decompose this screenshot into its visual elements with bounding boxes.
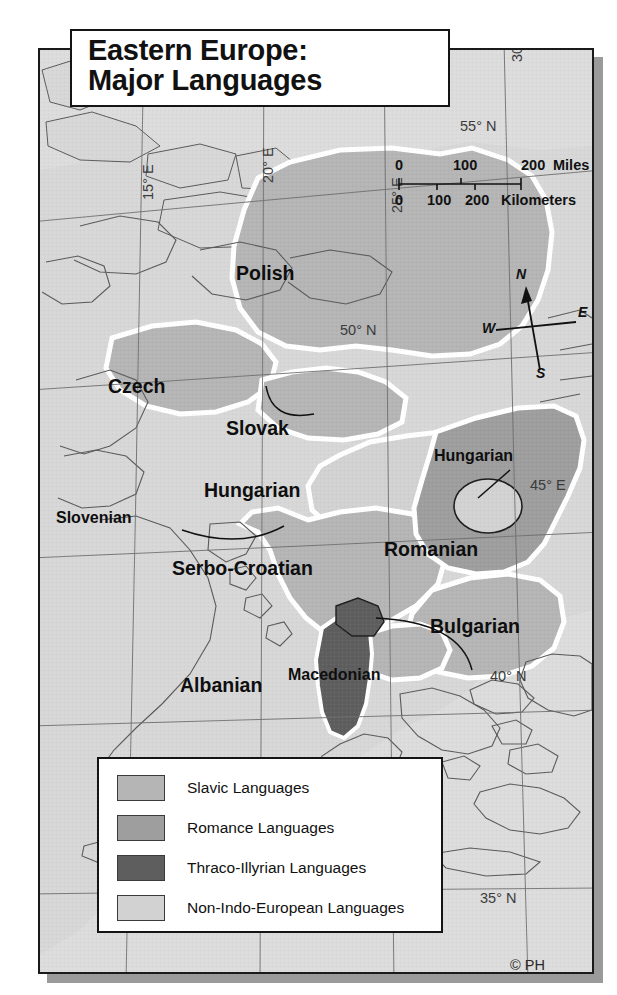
scale-bar-miles-row: 0 100 200 Miles: [395, 157, 594, 176]
compass-label-north: N: [516, 266, 526, 282]
legend-label-romance: Romance Languages: [187, 819, 334, 837]
legend-label-slavic: Slavic Languages: [187, 779, 309, 797]
map-label-slovenian: Slovenian: [56, 509, 132, 527]
scale-miles-tick-0: 0: [395, 157, 403, 173]
legend-item-non-indo-european: Non-Indo-European Languages: [99, 888, 441, 928]
scale-km-tick-100: 100: [427, 192, 451, 208]
graticule-label-55n: 55° N: [460, 118, 496, 134]
graticule-label-20e: 20° E: [260, 147, 276, 183]
graticule-label-15e: 15° E: [140, 164, 156, 200]
map-label-bulgarian: Bulgarian: [430, 615, 520, 638]
scale-bar-km-row: 0 100 200 Kilometers: [395, 192, 594, 211]
scale-km-unit: Kilometers: [501, 192, 576, 208]
scale-miles-tick-200: 200: [521, 157, 545, 173]
compass-label-south: S: [536, 365, 545, 381]
legend-item-thraco-illyrian: Thraco-Illyrian Languages: [99, 848, 441, 888]
legend-item-romance: Romance Languages: [99, 808, 441, 848]
graticule-label-45e: 45° E: [530, 477, 566, 493]
legend-label-thraco-illyrian: Thraco-Illyrian Languages: [187, 859, 366, 877]
map-title-line-2: Major Languages: [88, 66, 434, 96]
compass-label-east: E: [578, 304, 587, 320]
map-label-serbo-croatian: Serbo-Croatian: [172, 557, 313, 580]
legend-swatch-non-indo-european: [117, 895, 165, 921]
compass-label-west: W: [482, 320, 495, 336]
scale-km-tick-200: 200: [465, 192, 489, 208]
map-label-hungarian-enclave: Hungarian: [434, 447, 513, 465]
legend-label-non-indo-european: Non-Indo-European Languages: [187, 899, 404, 917]
scale-miles-unit: Miles: [553, 157, 589, 173]
legend-swatch-romance: [117, 815, 165, 841]
map-label-albanian: Albanian: [180, 674, 262, 697]
graticule-label-40n: 40° N: [490, 668, 526, 684]
map-label-romanian: Romanian: [384, 538, 478, 561]
map-label-czech: Czech: [108, 375, 165, 398]
scale-km-tick-0: 0: [395, 192, 403, 208]
graticule-label-30e: 30° E: [509, 48, 525, 62]
map-title-box: Eastern Europe: Major Languages: [70, 29, 450, 107]
compass-rose: N E S W: [488, 260, 594, 385]
map-label-hungarian: Hungarian: [204, 479, 300, 502]
map-title-line-1: Eastern Europe:: [88, 36, 434, 66]
map-page: Polish Czech Slovak Hungarian Slovenian …: [0, 0, 617, 995]
legend-swatch-slavic: [117, 775, 165, 801]
legend-swatch-thraco-illyrian: [117, 855, 165, 881]
legend-item-slavic: Slavic Languages: [99, 768, 441, 808]
map-label-polish: Polish: [236, 262, 295, 285]
map-legend: Slavic Languages Romance Languages Thrac…: [97, 757, 443, 933]
copyright-credit: © PH: [510, 957, 545, 973]
scale-bar: 0 100 200 Miles 0 100 200 Kilometers: [395, 157, 594, 211]
graticule-label-35n: 35° N: [480, 890, 516, 906]
scale-bar-ruler: [395, 176, 594, 192]
map-label-slovak: Slovak: [226, 417, 289, 440]
graticule-label-50n: 50° N: [340, 322, 376, 338]
map-label-macedonian: Macedonian: [288, 666, 380, 684]
scale-miles-tick-100: 100: [453, 157, 477, 173]
